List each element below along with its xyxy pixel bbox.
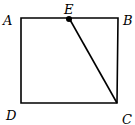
square-abcd [21,18,118,103]
geometry-diagram: A E B D C [0,0,135,125]
label-e: E [63,2,74,17]
label-d: D [5,108,17,123]
label-a: A [2,13,12,28]
label-b: B [122,13,133,28]
label-c: C [122,112,132,125]
segment-ec [69,18,117,103]
